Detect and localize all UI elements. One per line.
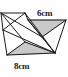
shaded-regions — [7, 20, 66, 55]
geometry-canvas — [0, 0, 68, 77]
dimension-label-top: 6cm — [37, 9, 52, 18]
segment-left-to-lower — [3, 30, 7, 55]
geometry-figure: 6cm 8cm — [0, 0, 68, 77]
upper-shaded-triangle — [28, 20, 66, 37]
dimension-label-bottom: 8cm — [14, 62, 29, 71]
